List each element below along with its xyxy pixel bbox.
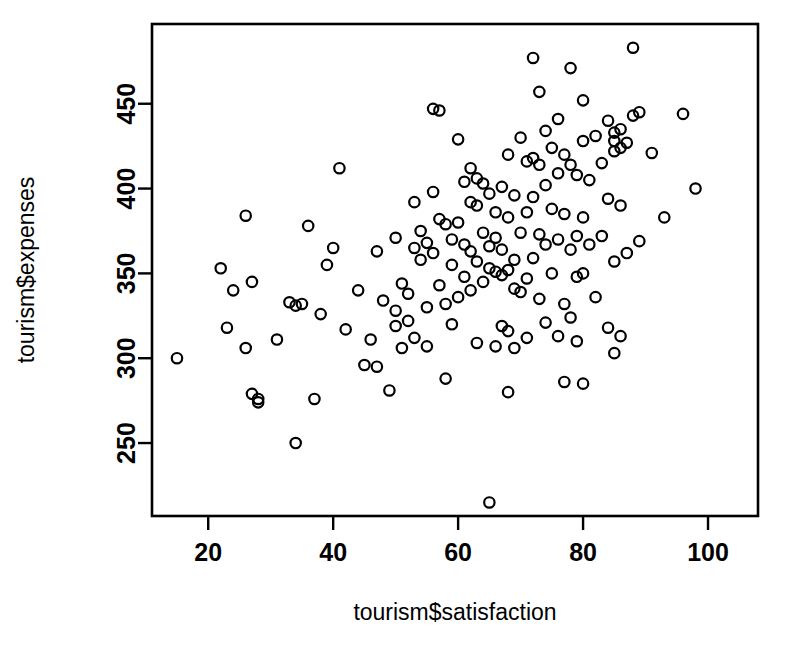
- data-point: [365, 334, 375, 344]
- x-tick-label: 20: [194, 538, 222, 566]
- data-point: [572, 231, 582, 241]
- data-point: [690, 183, 700, 193]
- data-point: [422, 302, 432, 312]
- x-axis-ticks: [208, 516, 708, 530]
- data-point: [340, 324, 350, 334]
- data-point: [490, 233, 500, 243]
- data-point: [403, 289, 413, 299]
- data-point: [372, 362, 382, 372]
- data-point: [453, 134, 463, 144]
- data-point: [584, 239, 594, 249]
- data-point: [315, 309, 325, 319]
- x-axis-tick-labels: 20406080100: [194, 538, 729, 566]
- data-point: [397, 278, 407, 288]
- data-point: [534, 229, 544, 239]
- data-point: [565, 63, 575, 73]
- data-point: [447, 319, 457, 329]
- data-point: [578, 95, 588, 105]
- data-point: [553, 331, 563, 341]
- data-point: [547, 268, 557, 278]
- data-point: [597, 158, 607, 168]
- data-point: [422, 238, 432, 248]
- data-point: [484, 497, 494, 507]
- data-point: [440, 373, 450, 383]
- y-tick-label: 450: [112, 83, 140, 125]
- data-point: [372, 246, 382, 256]
- data-point: [515, 132, 525, 142]
- data-point: [597, 231, 607, 241]
- data-point: [222, 322, 232, 332]
- data-point: [528, 192, 538, 202]
- data-point: [497, 182, 507, 192]
- data-point: [309, 394, 319, 404]
- plot-canvas: 20406080100 250300350400450 tourism$sati…: [0, 0, 800, 664]
- data-point: [241, 211, 251, 221]
- data-point: [553, 168, 563, 178]
- data-point: [290, 438, 300, 448]
- data-point: [447, 234, 457, 244]
- data-point: [547, 204, 557, 214]
- data-point: [428, 187, 438, 197]
- data-point: [478, 227, 488, 237]
- data-point: [503, 149, 513, 159]
- data-point: [540, 239, 550, 249]
- data-point: [409, 197, 419, 207]
- data-point: [553, 114, 563, 124]
- x-tick-label: 100: [687, 538, 729, 566]
- data-point: [509, 343, 519, 353]
- data-point: [534, 294, 544, 304]
- data-point: [403, 316, 413, 326]
- y-tick-label: 400: [112, 168, 140, 210]
- data-point: [590, 292, 600, 302]
- data-point: [609, 348, 619, 358]
- data-point: [559, 299, 569, 309]
- y-axis-title: tourism$expenses: [13, 177, 39, 364]
- data-point: [528, 53, 538, 63]
- y-axis-tick-labels: 250300350400450: [112, 83, 140, 464]
- data-point: [615, 200, 625, 210]
- data-point: [272, 334, 282, 344]
- data-point: [447, 260, 457, 270]
- data-point: [428, 248, 438, 258]
- data-point: [503, 387, 513, 397]
- data-point: [603, 322, 613, 332]
- data-point: [615, 331, 625, 341]
- data-point: [609, 256, 619, 266]
- data-point: [484, 188, 494, 198]
- data-point: [490, 341, 500, 351]
- data-point: [415, 255, 425, 265]
- data-point: [540, 180, 550, 190]
- data-point: [634, 236, 644, 246]
- data-point: [509, 255, 519, 265]
- data-point: [434, 105, 444, 115]
- x-tick-label: 80: [569, 538, 597, 566]
- data-point: [478, 277, 488, 287]
- scatter-points-layer: [172, 43, 701, 508]
- data-point: [390, 306, 400, 316]
- data-point: [228, 285, 238, 295]
- data-point: [415, 226, 425, 236]
- data-point: [465, 246, 475, 256]
- y-tick-label: 350: [112, 253, 140, 295]
- y-tick-label: 250: [112, 422, 140, 464]
- data-point: [678, 109, 688, 119]
- data-point: [578, 212, 588, 222]
- data-point: [409, 243, 419, 253]
- data-point: [422, 341, 432, 351]
- data-point: [297, 299, 307, 309]
- scatter-plot-figure: 20406080100 250300350400450 tourism$sati…: [0, 0, 800, 664]
- data-point: [497, 244, 507, 254]
- data-point: [472, 338, 482, 348]
- y-axis-ticks: [138, 104, 152, 443]
- data-point: [303, 221, 313, 231]
- data-point: [659, 212, 669, 222]
- data-point: [522, 273, 532, 283]
- data-point: [565, 312, 575, 322]
- data-point: [565, 160, 575, 170]
- data-point: [522, 207, 532, 217]
- y-tick-label: 300: [112, 337, 140, 379]
- data-point: [440, 299, 450, 309]
- data-point: [559, 377, 569, 387]
- data-point: [584, 175, 594, 185]
- data-point: [434, 280, 444, 290]
